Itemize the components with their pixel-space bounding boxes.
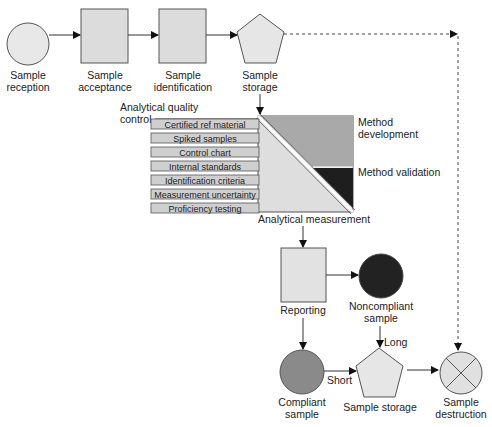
label-reception-2: reception xyxy=(6,81,49,93)
label-method-dev-2: development xyxy=(358,128,418,140)
label-compliant-1: Compliant xyxy=(278,396,325,408)
sample-storage-node xyxy=(237,14,284,63)
qc-item: Spiked samples xyxy=(173,134,237,144)
label-destruction-1: Sample xyxy=(443,396,479,408)
label-storage-bottom: Sample storage xyxy=(343,401,417,413)
label-noncompliant-1: Noncompliant xyxy=(349,300,413,312)
qc-item: Control chart xyxy=(179,148,231,158)
noncompliant-sample-node xyxy=(359,254,403,298)
label-destruction-2: destruction xyxy=(435,408,487,420)
label-noncompliant-2: sample xyxy=(364,312,398,324)
reporting-node xyxy=(281,248,326,302)
qc-item: Proficiency testing xyxy=(168,204,241,214)
qc-item: Certified ref material xyxy=(164,120,245,130)
label-reporting: Reporting xyxy=(280,304,326,316)
label-analytical-measurement: Analytical measurement xyxy=(258,213,370,225)
label-identification-2: identification xyxy=(154,81,213,93)
qc-item: Identification criteria xyxy=(165,176,245,186)
sample-reception-node xyxy=(7,23,49,65)
label-short: Short xyxy=(327,374,352,386)
qc-title-1: Analytical quality xyxy=(120,101,199,113)
qc-item: Measurement uncertainty xyxy=(154,190,256,200)
label-acceptance-2: acceptance xyxy=(78,81,132,93)
qc-item: Internal standards xyxy=(169,162,242,172)
qc-list: Certified ref material Spiked samples Co… xyxy=(151,119,259,214)
qc-title-2: control xyxy=(120,113,152,125)
sample-acceptance-node xyxy=(81,9,128,63)
label-storage-1: Sample xyxy=(242,69,278,81)
label-reception-1: Sample xyxy=(10,69,46,81)
label-acceptance-1: Sample xyxy=(87,69,123,81)
sample-storage-bottom-node xyxy=(356,348,403,397)
label-compliant-2: sample xyxy=(285,408,319,420)
label-method-validation: Method validation xyxy=(358,166,440,178)
label-storage-2: storage xyxy=(242,81,277,93)
compliant-sample-node xyxy=(280,350,324,394)
label-method-dev-1: Method xyxy=(358,116,393,128)
label-long: Long xyxy=(384,336,408,348)
sample-identification-node xyxy=(159,9,206,63)
label-identification-1: Sample xyxy=(165,69,201,81)
lab-workflow-diagram: Sample reception Sample acceptance Sampl… xyxy=(0,0,492,427)
